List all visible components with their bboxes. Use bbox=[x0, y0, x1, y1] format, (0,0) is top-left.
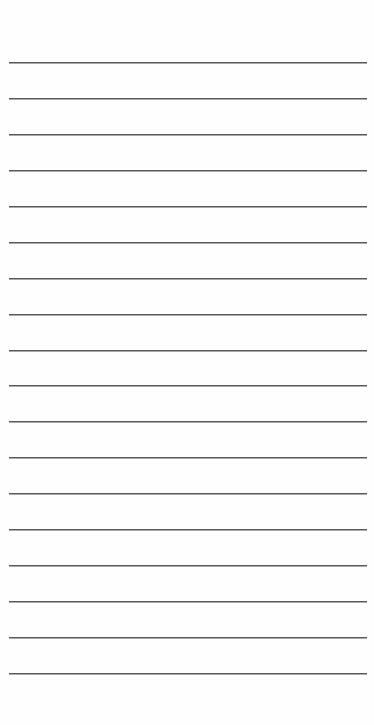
ruled-line bbox=[9, 206, 367, 208]
ruled-line bbox=[9, 314, 367, 316]
ruled-line bbox=[9, 637, 367, 639]
ruled-line bbox=[9, 421, 367, 423]
ruled-line bbox=[9, 385, 367, 387]
ruled-line bbox=[9, 242, 367, 244]
ruled-line bbox=[9, 673, 367, 675]
ruled-line bbox=[9, 170, 367, 172]
ruled-line bbox=[9, 134, 367, 136]
ruled-line bbox=[9, 529, 367, 531]
ruled-line bbox=[9, 350, 367, 352]
ruled-line bbox=[9, 601, 367, 603]
lined-paper-sheet bbox=[0, 0, 374, 725]
ruled-line bbox=[9, 565, 367, 567]
ruled-line bbox=[9, 457, 367, 459]
ruled-line bbox=[9, 98, 367, 100]
ruled-line bbox=[9, 278, 367, 280]
ruled-line bbox=[9, 62, 367, 64]
ruled-line bbox=[9, 493, 367, 495]
